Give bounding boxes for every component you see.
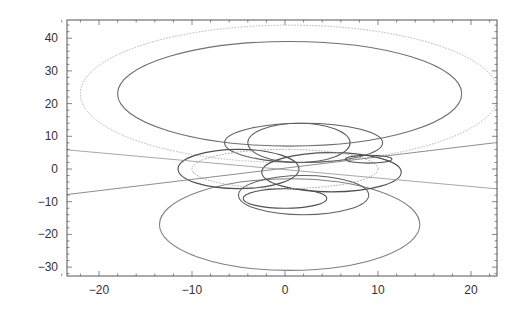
x-tick-label: −10 <box>182 283 203 297</box>
y-tick-label: −20 <box>38 227 59 241</box>
x-tick-label: 20 <box>464 283 478 297</box>
trajectory-chart: −20−1001020 −30−20−10010203040 <box>0 0 526 311</box>
x-tick-label: −20 <box>89 283 110 297</box>
series-curve <box>239 176 369 215</box>
x-tick-label: 10 <box>371 283 385 297</box>
plot-frame <box>67 20 497 276</box>
y-tick-label: −10 <box>38 195 59 209</box>
plot-curves <box>62 25 499 270</box>
series-curve <box>118 41 462 146</box>
series-curve <box>159 179 419 271</box>
series-curve <box>80 25 499 162</box>
series-curve <box>243 189 327 209</box>
y-tick-label: 0 <box>51 162 58 176</box>
y-tick-label: −30 <box>38 260 59 274</box>
y-tick-label: 20 <box>45 97 59 111</box>
series-curve <box>248 123 350 162</box>
y-tick-label: 40 <box>45 31 59 45</box>
x-tick-label: 0 <box>282 283 289 297</box>
series-curve <box>192 149 378 188</box>
y-tick-label: 30 <box>45 64 59 78</box>
series-line <box>62 149 494 188</box>
y-tick-label: 10 <box>45 129 59 143</box>
